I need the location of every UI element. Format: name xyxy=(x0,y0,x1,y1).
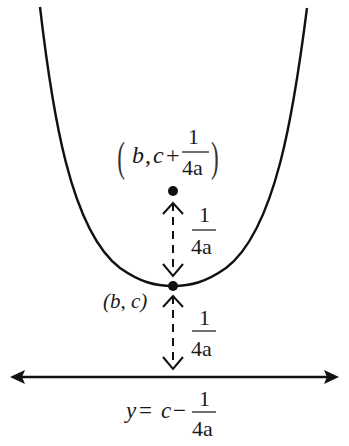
svg-text:1: 1 xyxy=(188,124,199,149)
parabola-diagram: ( b , c + 1 4a ) 1 4a (b, c) 1 4a y = c … xyxy=(0,0,349,446)
svg-text:+: + xyxy=(166,142,180,168)
svg-text:y: y xyxy=(124,398,137,423)
svg-text:(: ( xyxy=(117,134,125,181)
svg-text:c: c xyxy=(161,398,171,423)
svg-text:c: c xyxy=(153,142,164,168)
vertex-point xyxy=(168,281,178,291)
svg-text:=: = xyxy=(139,398,152,423)
svg-text:4a: 4a xyxy=(182,155,203,180)
svg-text:−: − xyxy=(173,398,186,423)
svg-text:): ) xyxy=(211,134,219,181)
svg-text:4a: 4a xyxy=(191,336,212,361)
svg-text:1: 1 xyxy=(199,386,210,411)
svg-text:1: 1 xyxy=(199,305,210,330)
upper-distance-label: 1 4a xyxy=(191,202,216,259)
lower-distance-label: 1 4a xyxy=(191,305,216,361)
focus-label: ( b , c + 1 4a ) xyxy=(117,124,219,181)
svg-text:4a: 4a xyxy=(191,234,212,259)
directrix-line xyxy=(10,370,339,384)
directrix-label: y = c − 1 4a xyxy=(124,386,216,441)
focus-point xyxy=(168,186,178,196)
svg-text:4a: 4a xyxy=(192,416,213,441)
svg-text:1: 1 xyxy=(199,202,210,227)
upper-distance-arrow xyxy=(163,203,183,276)
svg-text:b: b xyxy=(132,142,144,168)
lower-distance-arrow xyxy=(163,296,183,369)
vertex-label: (b, c) xyxy=(103,289,147,313)
svg-text:,: , xyxy=(145,142,151,168)
